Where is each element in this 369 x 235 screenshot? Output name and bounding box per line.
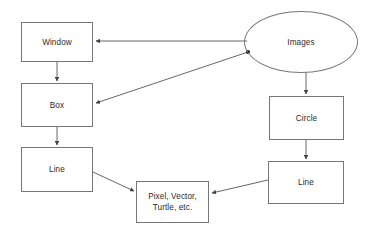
edge-line-left-to-primitives <box>93 172 134 191</box>
node-line-right-label: Line <box>298 177 314 188</box>
node-window[interactable]: Window <box>21 22 93 62</box>
node-line-left[interactable]: Line <box>21 147 93 192</box>
node-images-label: Images <box>287 37 314 48</box>
node-box-label: Box <box>50 100 64 111</box>
node-primitives[interactable]: Pixel, Vector, Turtle, etc. <box>136 181 209 223</box>
node-images[interactable]: Images <box>244 11 358 73</box>
node-line-right[interactable]: Line <box>268 161 344 204</box>
edge-images-to-box <box>96 52 248 103</box>
node-circle[interactable]: Circle <box>269 96 344 140</box>
node-line-left-label: Line <box>49 164 65 175</box>
node-box[interactable]: Box <box>21 83 93 127</box>
node-window-label: Window <box>42 37 72 48</box>
diagram-canvas: Window Box Line Images Circle Line Pixel… <box>0 0 369 235</box>
edge-line-right-to-primitives <box>212 180 268 193</box>
node-circle-label: Circle <box>296 113 318 124</box>
node-primitives-label: Pixel, Vector, Turtle, etc. <box>148 191 197 213</box>
